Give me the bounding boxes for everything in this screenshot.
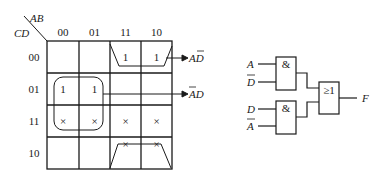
row-label: 10 [29, 147, 41, 159]
input-a-bar: A [246, 120, 254, 132]
diagram-canvas: AB CD 00 01 11 10 00 01 11 10 1 1 1 1 × … [0, 0, 387, 183]
label-ad-bar: AD [188, 52, 204, 64]
cell: 1 [123, 51, 129, 63]
arrow-abar-d [103, 91, 188, 97]
logic-circuit [258, 57, 357, 134]
row-label: 11 [29, 115, 40, 127]
cell: × [60, 115, 66, 127]
cell: × [153, 115, 159, 127]
label-abar-d: AD [188, 88, 204, 100]
input-d: D [246, 103, 255, 115]
cell: × [91, 115, 97, 127]
or-symbol: ≥1 [323, 84, 335, 96]
cell: 1 [92, 83, 98, 95]
and-symbol: & [282, 58, 291, 70]
row-label: 00 [29, 51, 41, 63]
input-d-bar: D [246, 76, 255, 88]
input-a: A [246, 58, 254, 70]
row-label: 01 [29, 83, 40, 95]
cell: × [122, 115, 128, 127]
col-label: 01 [89, 26, 100, 38]
arrow-ad-bar [166, 55, 188, 61]
col-var-label: AB [29, 12, 44, 24]
cell: 1 [154, 51, 160, 63]
and-symbol: & [282, 102, 291, 114]
col-label: 10 [151, 26, 163, 38]
row-var-label: CD [14, 27, 29, 39]
col-label: 00 [58, 26, 70, 38]
output-f: F [361, 92, 369, 104]
cell: 1 [60, 83, 66, 95]
col-label: 11 [120, 26, 131, 38]
